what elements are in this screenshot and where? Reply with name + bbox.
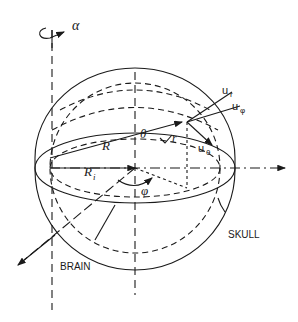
u-phi-label: u [232,100,238,112]
theta-label: θ [140,126,147,141]
r-label: r [172,131,177,145]
u-r-subscript: r [230,90,233,99]
Ri-subscript: i [93,172,96,182]
brain-label: BRAIN [60,261,91,272]
spherical-head-model-diagram: α R R i θ r φ u r u φ u θ SKULL BRAIN [0,0,298,322]
u-theta-label: u [198,142,204,154]
u-theta-subscript: θ [206,148,211,157]
skull-label: SKULL [228,229,260,240]
alpha-label: α [72,18,80,33]
Ri-label: R [83,164,92,179]
R-label: R [101,138,110,153]
phi-label: φ [141,183,148,198]
u-phi-subscript: φ [240,106,245,115]
u-r-label: u [222,84,228,96]
